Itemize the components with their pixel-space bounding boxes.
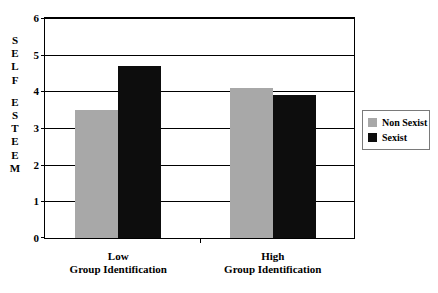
- x-axis-tick: [200, 238, 201, 243]
- legend-item: Non Sexist: [368, 115, 425, 130]
- y-axis-title-letter: M: [6, 162, 24, 175]
- y-axis-tick-label: 3: [34, 122, 40, 134]
- y-axis-title-letter: E: [6, 47, 24, 60]
- y-axis-tick-label: 5: [34, 49, 40, 61]
- y-axis-tick: [41, 91, 45, 92]
- y-axis-tick: [41, 128, 45, 129]
- y-axis-title-letter: E: [6, 135, 24, 148]
- plot-inner: 0123456LowGroup IdentificationHighGroup …: [45, 18, 354, 238]
- plot-area: 0123456LowGroup IdentificationHighGroup …: [44, 17, 355, 239]
- y-axis-title-letter: L: [6, 60, 24, 73]
- y-axis-title-letter: S: [6, 34, 24, 47]
- legend-label-non-sexist: Non Sexist: [382, 117, 427, 128]
- bar-sexist-low: [118, 66, 161, 238]
- y-axis-tick-label: 1: [34, 195, 40, 207]
- x-axis-group-label: LowGroup Identification: [70, 250, 167, 276]
- y-axis-title-letter: E: [6, 149, 24, 162]
- x-axis-group-label-line1: High: [261, 250, 284, 262]
- y-axis-tick-label: 2: [34, 159, 40, 171]
- y-axis-tick-label: 6: [34, 12, 40, 24]
- y-axis-tick: [41, 55, 45, 56]
- legend-label-sexist: Sexist: [382, 132, 407, 143]
- gridline: [45, 91, 354, 92]
- bar-sexist-high: [273, 95, 316, 238]
- x-axis-group-label: HighGroup Identification: [224, 250, 321, 276]
- chart-figure: SELFESTEEM 0123456LowGroup Identificatio…: [0, 0, 438, 293]
- y-axis-title-letter: F: [6, 74, 24, 87]
- chart-legend: Non Sexist Sexist: [362, 110, 430, 150]
- legend-item: Sexist: [368, 130, 425, 145]
- bar-non-sexist-high: [230, 88, 273, 238]
- y-axis-title-letter: T: [6, 122, 24, 135]
- y-axis-title-letter: S: [6, 109, 24, 122]
- x-axis-group-label-line1: Low: [108, 250, 129, 262]
- y-axis-tick: [41, 165, 45, 166]
- x-axis-group-label-line2: Group Identification: [224, 263, 321, 276]
- y-axis-title: SELFESTEEM: [6, 34, 24, 175]
- y-axis-tick-label: 0: [34, 232, 40, 244]
- y-axis-tick: [41, 18, 45, 19]
- bar-non-sexist-low: [75, 110, 118, 238]
- y-axis-tick-label: 4: [34, 85, 40, 97]
- y-axis-title-letter: E: [6, 96, 24, 109]
- y-axis-tick: [41, 237, 45, 238]
- x-axis-group-label-line2: Group Identification: [70, 263, 167, 276]
- legend-swatch-sexist: [368, 133, 377, 142]
- gridline: [45, 55, 354, 56]
- gridline: [45, 18, 354, 19]
- y-axis-title-letter: [6, 87, 24, 96]
- legend-swatch-non-sexist: [368, 118, 377, 127]
- y-axis-tick: [41, 201, 45, 202]
